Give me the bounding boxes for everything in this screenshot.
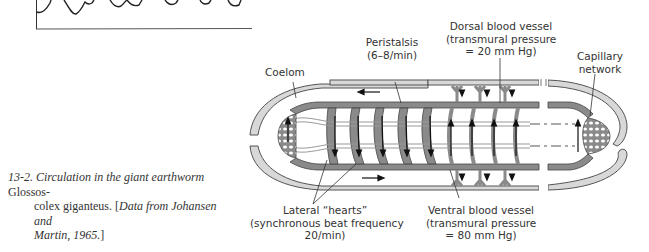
label-dorsal-line3: = 20 mm Hg) [446, 45, 556, 58]
caption-species-2: colex giganteus. [34, 199, 112, 213]
label-peristalsis-line1: Peristalsis [352, 36, 432, 49]
label-lateral-hearts: Lateral “hearts” (synchronous beat frequ… [250, 204, 400, 242]
caption-text: Circulation in the giant earthworm [36, 170, 204, 184]
caption-species-1: Glossos- [8, 185, 50, 199]
figure-number: 13-2. [8, 170, 33, 184]
caption-source-2: Martin, 1965. [34, 228, 100, 242]
figure-caption: 13-2. Circulation in the giant earthworm… [8, 170, 233, 243]
ventral-vessel [290, 158, 539, 170]
label-capillary-line1: Capillary [570, 50, 630, 63]
label-ventral-vessel: Ventral blood vessel (transmural pressur… [426, 204, 536, 242]
label-ventral-line2: (transmural pressure [426, 217, 536, 230]
label-hearts-line3: 20/min) [250, 229, 400, 242]
label-hearts-line1: Lateral “hearts” [250, 204, 400, 217]
label-hearts-line2: (synchronous beat frequency [250, 217, 400, 230]
label-dorsal-vessel: Dorsal blood vessel (transmural pressure… [446, 20, 556, 58]
capillary-network-right [583, 118, 610, 154]
label-ventral-line1: Ventral blood vessel [426, 204, 536, 217]
caption-line3: Martin, 1965.] [8, 228, 233, 243]
label-coelom: Coelom [265, 66, 305, 79]
label-capillary-line2: network [570, 63, 630, 76]
label-ventral-line3: = 80 mm Hg) [426, 229, 536, 242]
label-peristalsis: Peristalsis (6–8/min) [352, 36, 432, 61]
label-capillary-network: Capillary network [570, 50, 630, 75]
label-peristalsis-line2: (6–8/min) [352, 49, 432, 62]
label-dorsal-line1: Dorsal blood vessel [446, 20, 556, 33]
caption-bracket-close: ] [100, 228, 104, 242]
caption-line2: colex giganteus. [Data from Johansen and [8, 199, 233, 228]
label-dorsal-line2: (transmural pressure [446, 33, 556, 46]
